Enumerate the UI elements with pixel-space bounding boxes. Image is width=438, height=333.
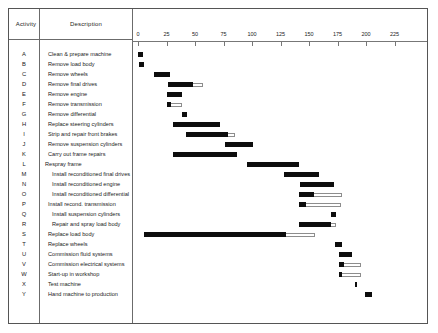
gantt-bar[interactable] — [168, 82, 193, 87]
gantt-bar[interactable] — [247, 162, 298, 167]
row-activity-letter: Y — [9, 289, 39, 300]
gantt-float-bar[interactable] — [286, 233, 315, 237]
gantt-bar[interactable] — [331, 212, 337, 217]
gantt-bar[interactable] — [299, 202, 306, 207]
gantt-float-bar[interactable] — [342, 273, 361, 277]
activity-rows: AClean & prepare machineBRemove load bod… — [9, 9, 427, 323]
gantt-bar[interactable] — [138, 52, 143, 57]
gantt-float-bar[interactable] — [314, 193, 343, 197]
gantt-bar[interactable] — [139, 62, 144, 67]
gantt-bar[interactable] — [365, 292, 372, 297]
gantt-float-bar[interactable] — [306, 203, 341, 207]
gantt-bar[interactable] — [154, 72, 170, 77]
gantt-bar[interactable] — [167, 92, 183, 97]
gantt-bar[interactable] — [335, 242, 342, 247]
gantt-bar[interactable] — [299, 222, 331, 227]
gantt-float-bar[interactable] — [228, 133, 235, 137]
gantt-bar[interactable] — [182, 112, 187, 117]
gantt-float-bar[interactable] — [344, 263, 361, 267]
gantt-bar[interactable] — [300, 182, 334, 187]
gantt-float-bar[interactable] — [331, 223, 337, 227]
gantt-bar[interactable] — [225, 142, 254, 147]
gantt-bar[interactable] — [173, 152, 237, 157]
gantt-chart-frame: Activity Description 0255075100125150175… — [8, 8, 428, 324]
gantt-float-bar[interactable] — [193, 83, 203, 87]
gantt-row[interactable]: YHand machine to production — [9, 289, 427, 300]
gantt-bar[interactable] — [355, 282, 357, 287]
gantt-bar[interactable] — [144, 232, 287, 237]
gantt-bar[interactable] — [339, 252, 353, 257]
row-description: Hand machine to production — [40, 289, 132, 300]
gantt-bar[interactable] — [186, 132, 228, 137]
gantt-bar[interactable] — [173, 122, 220, 127]
gantt-bar[interactable] — [284, 172, 319, 177]
gantt-bar[interactable] — [299, 192, 314, 197]
gantt-float-bar[interactable] — [171, 103, 182, 107]
